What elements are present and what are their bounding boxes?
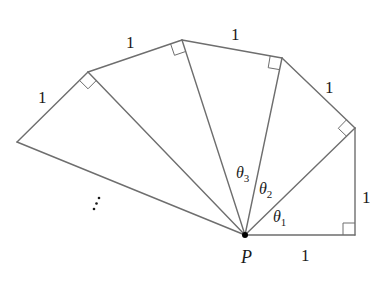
side-label-left: 1	[38, 88, 47, 107]
right-angle-icon	[338, 120, 347, 137]
point-p-dot	[242, 232, 248, 238]
side-label-bottom: 1	[301, 246, 310, 265]
edge-left	[17, 72, 88, 142]
side-label-upper-right: 1	[325, 78, 334, 97]
spokes	[17, 40, 355, 235]
angle-label-theta3: θ3	[236, 164, 250, 184]
side-label-right: 1	[362, 188, 371, 207]
spoke-5	[17, 142, 245, 235]
point-p-label: P	[240, 247, 252, 267]
edge-top-left	[88, 40, 182, 72]
angle-label-theta1: θ1	[273, 208, 286, 228]
side-label-top-left: 1	[126, 33, 135, 52]
side-label-top-right: 1	[231, 25, 240, 44]
spiral-diagram: 1 1 1 1 1 1 θ1 θ2 θ3 P	[0, 0, 384, 288]
spoke-3	[182, 40, 245, 235]
edge-upper-right	[282, 58, 355, 128]
angle-label-theta2: θ2	[259, 180, 272, 200]
continuation-ellipsis-icon	[93, 197, 101, 211]
spoke-4	[88, 72, 245, 235]
outer-edges	[17, 40, 355, 235]
right-angle-icon	[80, 80, 97, 88]
side-labels: 1 1 1 1 1 1	[38, 25, 371, 265]
right-angle-icon	[343, 223, 355, 235]
